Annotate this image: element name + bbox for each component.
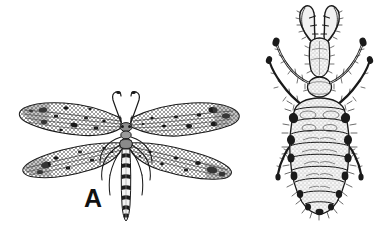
figure-label-a: A xyxy=(84,186,102,211)
larva-leg-front-left xyxy=(271,37,309,89)
larva-leg-mid-left xyxy=(265,55,304,110)
wing-upper-left xyxy=(19,103,122,136)
larva-prothorax xyxy=(304,77,336,97)
adult-head-thorax xyxy=(120,123,133,150)
antlion-larva-drawing xyxy=(248,0,381,230)
larva-leg-mid-right xyxy=(335,55,374,110)
larva-head xyxy=(305,38,335,77)
wing-lower-right xyxy=(130,143,232,179)
larva-body xyxy=(282,98,357,220)
figure-plate: A xyxy=(0,0,381,230)
figure-panel-b: B xyxy=(248,0,381,230)
adult-abdomen xyxy=(121,149,130,221)
figure-panel-a: A xyxy=(0,0,250,230)
larva-leg-front-right xyxy=(330,37,368,89)
wing-lower-left xyxy=(23,143,122,178)
wing-upper-right xyxy=(131,103,240,136)
adult-antlion-drawing xyxy=(0,0,250,230)
